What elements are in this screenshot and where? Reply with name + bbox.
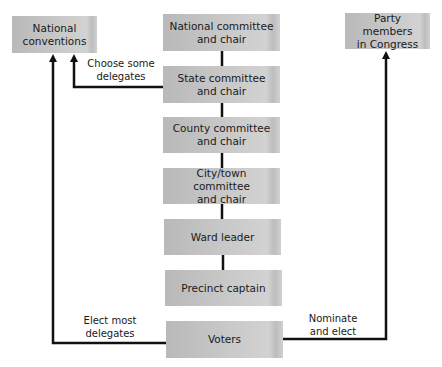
nominate-and-elect-label: Nominate and elect bbox=[298, 313, 368, 338]
national-committee-box: National committee and chair bbox=[163, 14, 280, 51]
arrowhead-icon bbox=[382, 51, 390, 59]
ward-leader-box: Ward leader bbox=[164, 219, 281, 255]
national-committee-label: National committee and chair bbox=[170, 20, 274, 46]
party-members-label: Party members in Congress bbox=[349, 12, 426, 51]
elect-most-delegates-label: Elect most delegates bbox=[75, 315, 145, 340]
arrowhead-icon bbox=[70, 54, 78, 62]
county-committee-box: County committee and chair bbox=[163, 117, 280, 153]
elect-most-delegates-arrow bbox=[53, 60, 166, 343]
party-organization-diagram: National conventions Party members in Co… bbox=[0, 0, 442, 367]
national-conventions-box: National conventions bbox=[12, 16, 97, 53]
state-committee-box: State committee and chair bbox=[163, 66, 280, 103]
choose-some-delegates-label: Choose some delegates bbox=[86, 58, 156, 83]
county-committee-label: County committee and chair bbox=[173, 122, 270, 148]
voters-label: Voters bbox=[208, 333, 241, 346]
arrowhead-icon bbox=[49, 54, 57, 62]
ward-leader-label: Ward leader bbox=[191, 231, 255, 244]
voters-box: Voters bbox=[166, 321, 283, 358]
precinct-captain-box: Precinct captain bbox=[165, 270, 282, 306]
city-town-committee-box: City/town committee and chair bbox=[163, 168, 280, 204]
city-town-committee-label: City/town committee and chair bbox=[167, 167, 276, 206]
nominate-and-elect-arrow bbox=[283, 57, 386, 339]
state-committee-label: State committee and chair bbox=[178, 72, 266, 98]
precinct-captain-label: Precinct captain bbox=[181, 282, 265, 295]
party-members-in-congress-box: Party members in Congress bbox=[345, 13, 430, 49]
national-conventions-label: National conventions bbox=[23, 22, 87, 48]
